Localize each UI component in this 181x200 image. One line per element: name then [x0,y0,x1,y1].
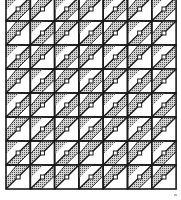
quilt-pattern [0,0,181,200]
corner-mark [174,194,177,196]
